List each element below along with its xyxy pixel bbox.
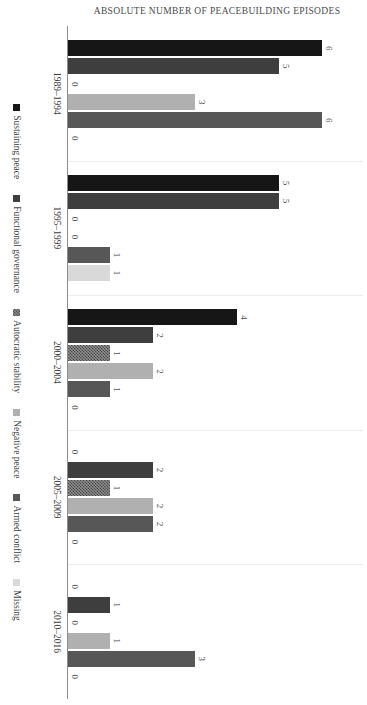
legend-item[interactable]: Negative peace	[12, 409, 22, 478]
bar-group: 650360	[68, 26, 363, 161]
legend-item[interactable]: Missing	[12, 579, 22, 621]
bar-slot: 0	[68, 130, 363, 146]
bar[interactable]	[68, 58, 279, 74]
bar-value-label: 1	[112, 633, 122, 649]
bar[interactable]	[68, 175, 279, 191]
bar[interactable]	[68, 381, 110, 397]
bar-value-label: 2	[155, 363, 165, 379]
x-axis-tick-label: 1995–1999	[31, 161, 65, 296]
bar-slot: 3	[68, 651, 363, 667]
bar-slot: 2	[68, 498, 363, 514]
legend-item[interactable]: Functional governance	[12, 195, 22, 293]
legend-item-label: Missing	[12, 590, 22, 621]
x-axis-tick-label: 1989–1994	[31, 26, 65, 161]
bar[interactable]	[68, 480, 110, 496]
bar-value-label: 0	[70, 615, 80, 631]
bar-value-label: 3	[197, 94, 207, 110]
bar[interactable]	[68, 498, 153, 514]
bar-slot: 6	[68, 112, 363, 128]
bar[interactable]	[68, 597, 110, 613]
bar-value-label: 0	[70, 399, 80, 415]
bar-group: 421210	[68, 295, 363, 430]
legend-item-label: Armed conflict	[12, 505, 22, 563]
bar-slot: 5	[68, 175, 363, 191]
bar-value-label: 1	[112, 247, 122, 263]
bar-value-label: 1	[112, 381, 122, 397]
bar-slot: 2	[68, 462, 363, 478]
bar-value-label: 0	[70, 669, 80, 685]
plot-area: 650360550011421210021220010130	[67, 26, 363, 699]
bar-value-label: 0	[70, 211, 80, 227]
chart-legend: Sustaining peaceFunctional governanceAut…	[5, 26, 29, 699]
y-axis-title-label: ABSOLUTE NUMBER OF PEACEBUILDING EPISODE…	[94, 6, 341, 16]
legend-item[interactable]: Autocratic stability	[12, 309, 22, 393]
bar-slot: 4	[68, 309, 363, 325]
bar-value-label: 5	[281, 175, 291, 191]
bar-value-label: 6	[324, 112, 334, 128]
x-axis-category-labels: 1989–19941995–19992000–20042005–20092010…	[31, 26, 65, 699]
bar-slot: 2	[68, 327, 363, 343]
bar-slot: 0	[68, 76, 363, 92]
bar[interactable]	[68, 193, 279, 209]
bar-chart-figure: ABSOLUTE NUMBER OF PEACEBUILDING EPISODE…	[0, 0, 367, 705]
bar-value-label: 0	[70, 76, 80, 92]
legend-item[interactable]: Sustaining peace	[12, 104, 22, 179]
bar-slot: 0	[68, 579, 363, 595]
bar-slot: 1	[68, 381, 363, 397]
bar-value-label: 5	[281, 193, 291, 209]
bar-value-label: 0	[70, 130, 80, 146]
legend-item-label: Functional governance	[12, 206, 22, 293]
bar-slot: 5	[68, 193, 363, 209]
bar-slot: 2	[68, 363, 363, 379]
bar[interactable]	[68, 40, 322, 56]
bar[interactable]	[68, 247, 110, 263]
bar-value-label: 4	[239, 309, 249, 325]
bar[interactable]	[68, 345, 110, 361]
bar-value-label: 1	[112, 480, 122, 496]
bar-value-label: 0	[70, 229, 80, 245]
x-axis-tick-label: 2005–2009	[31, 430, 65, 565]
legend-swatch-icon	[14, 494, 21, 501]
bar-value-label: 6	[324, 40, 334, 56]
bar[interactable]	[68, 112, 322, 128]
legend-item-label: Negative peace	[12, 420, 22, 478]
bar[interactable]	[68, 309, 237, 325]
bar[interactable]	[68, 633, 110, 649]
bar-value-label: 1	[112, 345, 122, 361]
bar[interactable]	[68, 462, 153, 478]
bar-value-label: 0	[70, 444, 80, 460]
bar-group: 550011	[68, 161, 363, 296]
legend-item-label: Sustaining peace	[12, 115, 22, 179]
bar[interactable]	[68, 651, 195, 667]
bar[interactable]	[68, 94, 195, 110]
bar-value-label: 1	[112, 597, 122, 613]
x-axis-tick-label: 2000–2004	[31, 295, 65, 430]
legend-item[interactable]: Armed conflict	[12, 494, 22, 563]
x-axis-tick-label: 2010–2016	[31, 564, 65, 699]
bar-group: 010130	[68, 564, 363, 699]
bar-slot: 0	[68, 229, 363, 245]
bar-value-label: 2	[155, 462, 165, 478]
legend-swatch-icon	[14, 409, 21, 416]
bar-slot: 1	[68, 633, 363, 649]
bar-slot: 0	[68, 669, 363, 685]
bar[interactable]	[68, 265, 110, 281]
bar-slot: 3	[68, 94, 363, 110]
legend-swatch-icon	[14, 309, 21, 316]
bar-slot: 5	[68, 58, 363, 74]
y-axis-title: ABSOLUTE NUMBER OF PEACEBUILDING EPISODE…	[67, 0, 367, 22]
bar-value-label: 1	[112, 265, 122, 281]
bar-slot: 6	[68, 40, 363, 56]
bar-slot: 1	[68, 345, 363, 361]
bar-slot: 2	[68, 516, 363, 532]
bar-value-label: 2	[155, 516, 165, 532]
bar[interactable]	[68, 327, 153, 343]
bar-value-label: 0	[70, 534, 80, 550]
bar[interactable]	[68, 363, 153, 379]
bar[interactable]	[68, 516, 153, 532]
legend-item-label: Autocratic stability	[12, 320, 22, 393]
bar-value-label: 0	[70, 579, 80, 595]
legend-swatch-icon	[14, 579, 21, 586]
bar-groups: 650360550011421210021220010130	[68, 26, 363, 699]
bar-value-label: 2	[155, 498, 165, 514]
